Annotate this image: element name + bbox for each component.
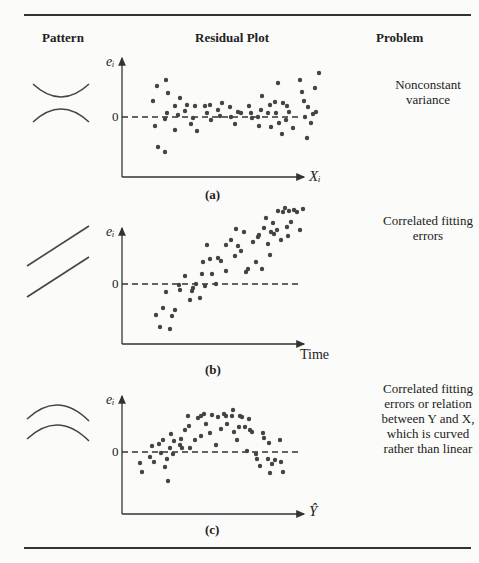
scatter-point xyxy=(300,90,304,94)
scatter-point xyxy=(164,290,168,294)
scatter-point xyxy=(298,228,302,232)
scatter-point xyxy=(220,101,224,105)
scatter-point xyxy=(205,243,209,247)
scatter-point xyxy=(188,446,192,450)
scatter-points xyxy=(138,71,321,483)
scatter-point xyxy=(204,422,208,426)
scatter-point xyxy=(233,122,237,126)
scatter-point xyxy=(259,108,263,112)
scatter-point xyxy=(250,430,254,434)
scatter-point xyxy=(166,91,170,95)
xlabel-b: Time xyxy=(300,347,329,363)
scatter-point xyxy=(199,434,203,438)
scatter-point xyxy=(229,238,233,242)
scatter-point xyxy=(269,125,273,129)
scatter-point xyxy=(152,460,156,464)
scatter-point xyxy=(243,425,247,429)
scatter-point xyxy=(208,257,212,261)
scatter-point xyxy=(232,430,236,434)
scatter-point xyxy=(164,78,168,82)
scatter-point xyxy=(203,284,207,288)
scatter-point xyxy=(151,99,155,103)
scatter-point xyxy=(285,104,289,108)
scatter-point xyxy=(237,425,241,429)
scatter-point xyxy=(279,460,283,464)
scatter-point xyxy=(177,283,181,287)
zero-label-a: 0 xyxy=(112,109,119,125)
scatter-point xyxy=(268,253,272,257)
scatter-point xyxy=(161,438,165,442)
scatter-point xyxy=(193,104,197,108)
caption-b: (b) xyxy=(205,362,221,378)
bottom-rule xyxy=(24,547,471,549)
scatter-point xyxy=(161,306,165,310)
scatter-point xyxy=(179,437,183,441)
scatter-point xyxy=(266,242,270,246)
scatter-point xyxy=(185,103,189,107)
scatter-point xyxy=(189,122,193,126)
scatter-point xyxy=(225,422,229,426)
scatter-point xyxy=(270,462,274,466)
scatter-point xyxy=(305,136,309,140)
scatter-point xyxy=(273,458,277,462)
scatter-point xyxy=(274,111,278,115)
scatter-point xyxy=(260,94,264,98)
scatter-point xyxy=(166,479,170,483)
scatter-point xyxy=(203,104,207,108)
scatter-point xyxy=(156,145,160,149)
scatter-point xyxy=(264,216,268,220)
scatter-point xyxy=(257,233,261,237)
scatter-point xyxy=(250,116,254,120)
scatter-point xyxy=(216,415,220,419)
scatter-point xyxy=(289,220,293,224)
scatter-point xyxy=(148,455,152,459)
scatter-point xyxy=(208,103,212,107)
scatter-point xyxy=(240,415,244,419)
scatter-point xyxy=(150,444,154,448)
scatter-point xyxy=(306,105,310,109)
scatter-point xyxy=(173,128,177,132)
scatter-point xyxy=(172,439,176,443)
scatter-point xyxy=(165,111,169,115)
pattern-icon-arches xyxy=(27,405,89,441)
scatter-point xyxy=(165,457,169,461)
scatter-point xyxy=(261,431,265,435)
scatter-point xyxy=(277,121,281,125)
scatter-point xyxy=(309,121,313,125)
scatter-point xyxy=(186,414,190,418)
scatter-point xyxy=(301,207,305,211)
scatter-point xyxy=(249,111,253,115)
scatter-point xyxy=(287,209,291,213)
scatter-point xyxy=(228,105,232,109)
scatter-point xyxy=(278,438,282,442)
zero-label-b: 0 xyxy=(112,276,119,292)
scatter-point xyxy=(295,210,299,214)
scatter-point xyxy=(275,228,279,232)
scatter-point xyxy=(317,71,321,75)
scatter-point xyxy=(198,296,202,300)
axes-a xyxy=(122,58,304,177)
scatter-point xyxy=(281,470,285,474)
scatter-point xyxy=(257,124,261,128)
problem-b: Correlated fitting errors xyxy=(378,213,478,243)
scatter-point xyxy=(268,471,272,475)
scatter-point xyxy=(163,465,167,469)
scatter-point xyxy=(218,114,222,118)
scatter-point xyxy=(176,113,180,117)
scatter-point xyxy=(163,150,167,154)
ylabel-c: eᵢ xyxy=(106,392,114,408)
scatter-point xyxy=(303,115,307,119)
ylabel-b: eᵢ xyxy=(106,224,114,240)
scatter-point xyxy=(266,111,270,115)
scatter-point xyxy=(173,104,177,108)
scatter-point xyxy=(267,441,271,445)
scatter-point xyxy=(224,269,228,273)
scatter-point xyxy=(271,221,275,225)
scatter-point xyxy=(201,260,205,264)
scatter-point xyxy=(140,470,144,474)
scatter-point xyxy=(258,464,262,468)
scatter-point xyxy=(180,446,184,450)
problem-a: Nonconstant variance xyxy=(378,77,478,107)
scatter-point xyxy=(168,446,172,450)
scatter-point xyxy=(195,129,199,133)
